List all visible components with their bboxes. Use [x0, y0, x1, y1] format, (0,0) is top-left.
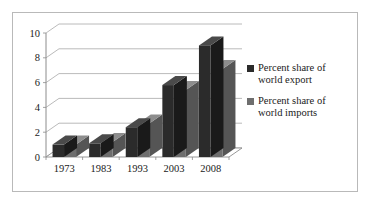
y-axis-tick-label: 0	[35, 152, 40, 163]
x-axis-tick-label: 1973	[54, 163, 75, 174]
y-axis-tick-label: 10	[30, 28, 41, 39]
y-axis-tick-label: 6	[35, 77, 40, 88]
y-axis-tick-label: 4	[35, 102, 41, 113]
x-axis-tick-label: 1983	[90, 163, 111, 174]
legend-label-imports: Percent share of world imports	[258, 95, 326, 119]
bar-export-2008	[199, 36, 224, 157]
legend-item-export: Percent share of world export	[247, 62, 351, 86]
chart-legend: Percent share of world export Percent sh…	[247, 62, 351, 128]
legend-swatch-export	[247, 65, 254, 72]
y-axis-tick-label: 2	[35, 127, 40, 138]
legend-item-imports: Percent share of world imports	[247, 95, 351, 119]
x-axis-tick-label: 2008	[200, 163, 221, 174]
legend-swatch-imports	[247, 98, 254, 105]
x-axis-tick-label: 1993	[127, 163, 148, 174]
x-axis-tick-label: 2003	[164, 163, 185, 174]
chart-container: 024681019731983199320032008 Percent shar…	[0, 0, 372, 206]
y-axis-tick-label: 8	[35, 52, 40, 63]
bar-export-2003	[162, 76, 187, 157]
legend-label-export: Percent share of world export	[258, 62, 326, 86]
